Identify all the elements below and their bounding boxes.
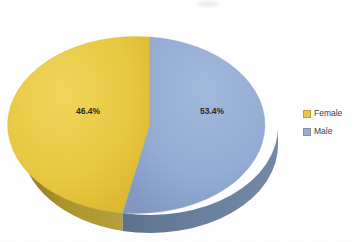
legend-swatch-female-icon	[303, 110, 311, 118]
legend-label-male: Male	[314, 127, 332, 136]
pie-top-surface	[8, 36, 265, 213]
chart-legend: Female Male	[303, 106, 354, 142]
legend-label-female: Female	[314, 109, 342, 118]
legend-item-female[interactable]: Female	[303, 106, 354, 121]
pie-slice-female	[8, 36, 150, 212]
pie-chart-canvas: 46.4% 53.4%	[0, 0, 354, 242]
legend-swatch-male-icon	[303, 128, 311, 136]
pie-chart-figure: 46.4% 53.4% Female Male	[0, 0, 354, 242]
legend-item-male[interactable]: Male	[303, 124, 354, 139]
slice-label-male: 53.4%	[200, 106, 225, 116]
slice-label-female: 46.4%	[76, 106, 101, 116]
